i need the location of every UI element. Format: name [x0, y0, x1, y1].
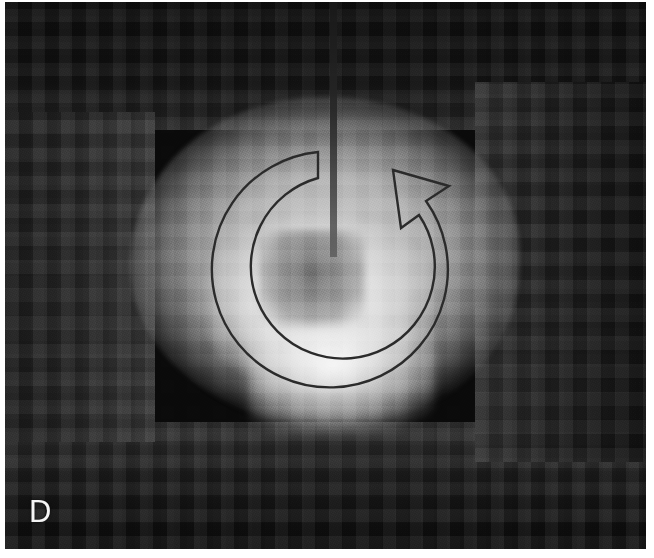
specimen-bright-lobe — [250, 322, 435, 432]
micrograph-image: D — [5, 2, 646, 549]
specimen-dark-patch — [260, 230, 365, 330]
figure-panel: D — [0, 0, 654, 558]
pixel-noise-field — [5, 2, 646, 549]
panel-label: D — [29, 496, 52, 527]
vertical-needle-icon — [330, 2, 337, 257]
